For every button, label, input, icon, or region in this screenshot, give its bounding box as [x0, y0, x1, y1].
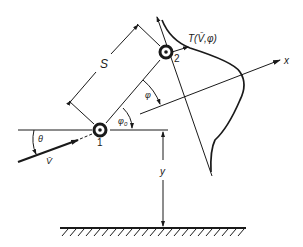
- separation-line: [106, 60, 160, 123]
- label-theta: θ: [38, 134, 43, 144]
- label-particle-2: 2: [174, 53, 180, 64]
- ground: [60, 228, 246, 236]
- label-particle-1: 1: [97, 137, 103, 148]
- separation-dimension: [69, 24, 160, 124]
- theta-arc: [33, 130, 36, 154]
- label-distribution: T(V̄,φ): [188, 32, 217, 44]
- velocity-vector: [18, 134, 92, 162]
- label-height: y: [159, 166, 166, 177]
- label-phi0: φ0: [118, 116, 128, 127]
- label-velocity: V̄: [46, 156, 53, 166]
- particle-geometry-diagram: S 1 2 T(V̄,φ) x y θ V̄ φ φ0: [0, 0, 303, 247]
- label-separation: S: [100, 57, 108, 71]
- x-axis: [140, 60, 280, 114]
- label-phi: φ: [145, 90, 151, 100]
- particle-1: [94, 124, 106, 136]
- particle-2: [160, 46, 172, 58]
- diagram-svg: S 1 2 T(V̄,φ) x y θ V̄ φ φ0: [0, 0, 303, 247]
- label-x-axis: x: [283, 55, 290, 66]
